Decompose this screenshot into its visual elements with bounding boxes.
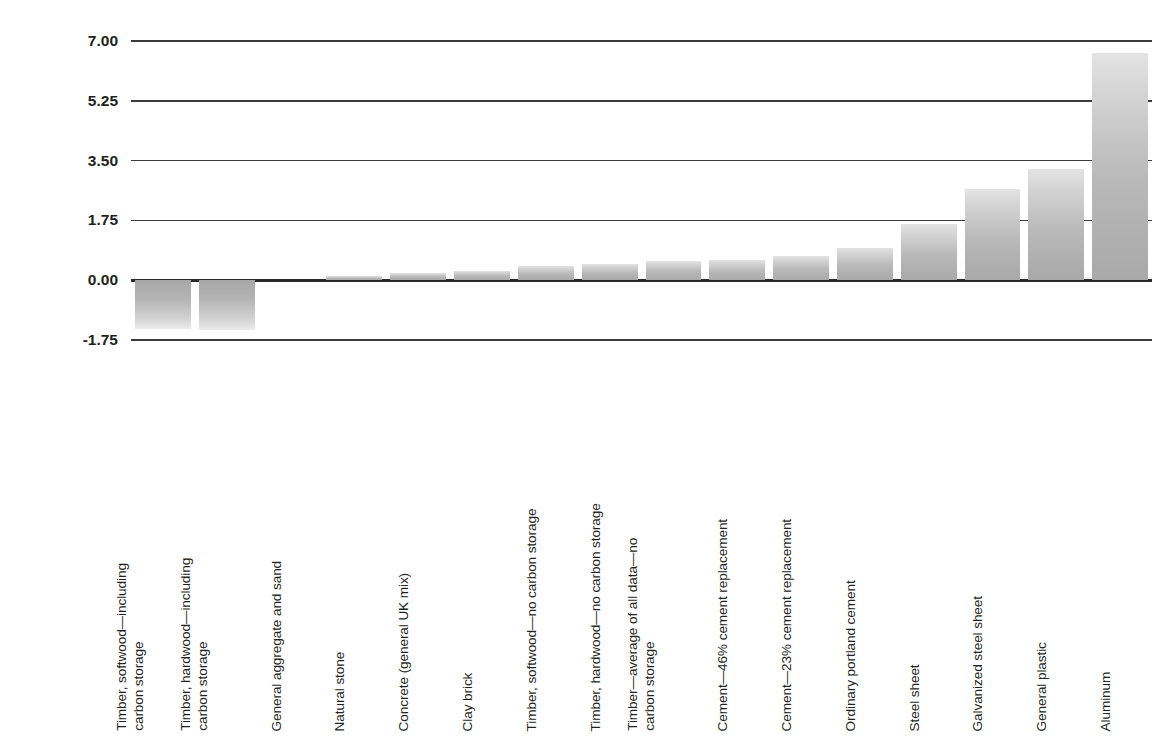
x-axis-label: Cement—23% cement replacement — [769, 345, 833, 731]
bars-group — [131, 41, 1152, 340]
bar-slot — [961, 41, 1025, 340]
bar-slot — [769, 41, 833, 340]
x-axis-label-line: carbon storage — [195, 558, 212, 731]
bar — [390, 273, 446, 280]
bar-slot — [897, 41, 961, 340]
x-axis-label: Aluminum — [1088, 345, 1152, 731]
bar-slot — [833, 41, 897, 340]
bar — [326, 276, 382, 280]
x-axis-label: General aggregate and sand — [259, 345, 323, 731]
bar — [1028, 169, 1084, 280]
x-axis-label-line: Ordinary portland cement — [842, 580, 857, 731]
x-axis-label: Concrete (general UK mix) — [386, 345, 450, 731]
bar-slot — [195, 41, 259, 340]
x-axis-label-line: Aluminum — [1098, 671, 1113, 731]
bar-slot — [1024, 41, 1088, 340]
x-axis-label: Cement—46% cement replacement — [705, 345, 769, 731]
x-axis-label-line: Timber, hardwood—no carbon storage — [587, 503, 602, 731]
x-axis-label: Timber—average of all data—nocarbon stor… — [642, 345, 706, 731]
bar — [582, 264, 638, 280]
bar-slot — [131, 41, 195, 340]
bar-slot — [578, 41, 642, 340]
x-axis-label-line: carbon storage — [642, 538, 659, 731]
x-axis-label: Clay brick — [450, 345, 514, 731]
x-axis-label-line: General plastic — [1034, 642, 1049, 731]
bar-chart: 2½lb (1kg) CO2 emissions per 2½lb (1kg) … — [0, 0, 1158, 737]
bar-slot — [322, 41, 386, 340]
bar — [1092, 53, 1148, 280]
bar-slot — [259, 41, 323, 340]
x-axis-label: Timber, softwood—no carbon storage — [514, 345, 578, 731]
y-tick-label: 5.25 — [0, 92, 118, 110]
bar — [646, 261, 702, 280]
x-axis-label-line: General aggregate and sand — [268, 561, 283, 731]
y-tick-label: -1.75 — [0, 331, 118, 349]
bar-slot — [642, 41, 706, 340]
x-axis-label-line: Cement—46% cement replacement — [715, 519, 730, 731]
bar-slot — [514, 41, 578, 340]
bar-slot — [450, 41, 514, 340]
y-tick-label: 3.50 — [0, 152, 118, 170]
x-axis-label: Natural stone — [322, 345, 386, 731]
x-axis-label-line: Cement—23% cement replacement — [779, 519, 794, 731]
bar — [135, 280, 191, 329]
x-axis-label-line: carbon storage — [131, 563, 148, 731]
bar-slot — [1088, 41, 1152, 340]
x-axis-label-line: Timber, hardwood—including — [178, 558, 193, 731]
x-axis-label: Timber, hardwood—includingcarbon storage — [195, 345, 259, 731]
x-axis-label-line: Natural stone — [332, 651, 347, 731]
bar — [709, 260, 765, 280]
x-axis-label-line: Galvanized steel sheet — [970, 596, 985, 731]
x-axis-label: Ordinary portland cement — [833, 345, 897, 731]
x-axis-label: Steel sheet — [897, 345, 961, 731]
y-tick-label: 1.75 — [0, 211, 118, 229]
x-axis-label-line: Clay brick — [460, 672, 475, 731]
y-tick-label: 0.00 — [0, 271, 118, 289]
x-axis-label-line: Timber—average of all data—no — [625, 538, 640, 731]
bar — [901, 224, 957, 280]
x-axis-label-line: Concrete (general UK mix) — [396, 573, 411, 731]
x-axis-categories: Timber, softwood—includingcarbon storage… — [131, 345, 1152, 737]
bar-slot — [705, 41, 769, 340]
bar — [454, 271, 510, 280]
bar — [965, 189, 1021, 281]
x-axis-label: General plastic — [1024, 345, 1088, 731]
bar-slot — [386, 41, 450, 340]
y-tick-label: 7.00 — [0, 32, 118, 50]
x-axis-label-line: Timber, softwood—including — [115, 563, 130, 731]
x-axis-label-line: Steel sheet — [906, 664, 921, 731]
bar — [518, 266, 574, 280]
bar — [773, 256, 829, 280]
x-axis-label-line: Timber, softwood—no carbon storage — [523, 508, 538, 731]
x-axis-label: Galvanized steel sheet — [961, 345, 1025, 731]
bar — [199, 280, 255, 330]
bar — [837, 248, 893, 280]
